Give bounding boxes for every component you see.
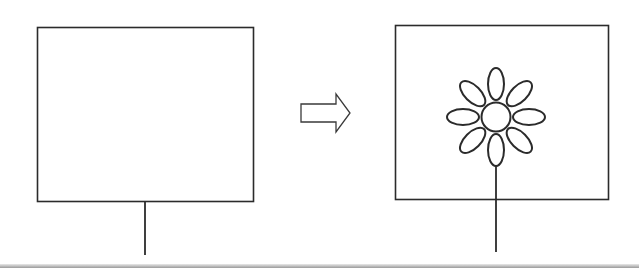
petal bbox=[456, 77, 490, 111]
petal bbox=[502, 123, 536, 157]
petal bbox=[502, 77, 536, 111]
petal bbox=[456, 123, 490, 157]
right-arrow-icon bbox=[301, 94, 350, 132]
petal bbox=[488, 68, 504, 100]
before-panel bbox=[38, 28, 254, 256]
flower-center bbox=[482, 103, 511, 132]
petal bbox=[447, 109, 479, 125]
diagram-canvas bbox=[0, 0, 639, 268]
flower-icon bbox=[447, 68, 545, 166]
after-panel bbox=[396, 26, 609, 253]
empty-frame bbox=[38, 28, 254, 202]
bottom-border bbox=[0, 264, 639, 268]
petal bbox=[488, 134, 504, 166]
petal bbox=[513, 109, 545, 125]
